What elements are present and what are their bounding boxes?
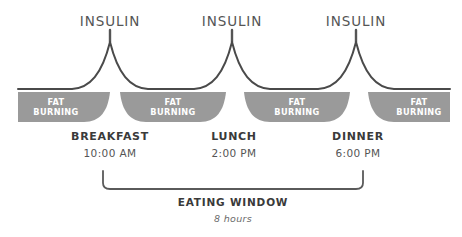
fat-burning-label-line1: FAT (164, 97, 181, 107)
meal-name: BREAKFAST (71, 130, 149, 143)
meal-name: DINNER (332, 130, 384, 143)
fat-burning-block-1: FAT BURNING (18, 92, 110, 122)
meal-labels: BREAKFAST 10:00 AM LUNCH 2:00 PM DINNER … (71, 130, 384, 159)
bracket-path (103, 171, 363, 189)
insulin-label-3: INSULIN (326, 13, 386, 29)
fat-burning-block-4: FAT BURNING (368, 92, 450, 122)
fat-burning-label-line1: FAT (410, 97, 427, 107)
fat-burning-blocks: FAT BURNING FAT BURNING FAT BURNING FAT … (18, 92, 450, 122)
insulin-fat-burning-infographic: FAT BURNING FAT BURNING FAT BURNING FAT … (0, 0, 462, 237)
fat-burning-label-line2: BURNING (274, 107, 319, 117)
eating-window-duration: 8 hours (214, 213, 252, 224)
insulin-labels: INSULIN INSULIN INSULIN (80, 13, 386, 29)
meal-time: 2:00 PM (211, 147, 256, 159)
eating-window-bracket (103, 171, 363, 189)
meal-time: 6:00 PM (335, 147, 380, 159)
meal-breakfast: BREAKFAST 10:00 AM (71, 130, 149, 159)
insulin-stems (110, 30, 356, 42)
fat-burning-label-line2: BURNING (150, 107, 195, 117)
fat-burning-label-line2: BURNING (396, 107, 441, 117)
meal-time: 10:00 AM (83, 147, 136, 159)
fat-burning-label-line1: FAT (47, 97, 64, 107)
eating-window-title: EATING WINDOW (178, 196, 289, 208)
insulin-curve-path (18, 42, 450, 89)
insulin-label-2: INSULIN (202, 13, 262, 29)
fat-burning-label-line1: FAT (288, 97, 305, 107)
insulin-label-1: INSULIN (80, 13, 140, 29)
insulin-curve (18, 42, 450, 89)
meal-name: LUNCH (211, 130, 257, 143)
fat-burning-label-line2: BURNING (33, 107, 78, 117)
meal-lunch: LUNCH 2:00 PM (211, 130, 257, 159)
fat-burning-block-3: FAT BURNING (244, 92, 350, 122)
meal-dinner: DINNER 6:00 PM (332, 130, 384, 159)
diagram-canvas: FAT BURNING FAT BURNING FAT BURNING FAT … (0, 0, 462, 237)
fat-burning-block-2: FAT BURNING (120, 92, 226, 122)
eating-window-labels: EATING WINDOW 8 hours (178, 196, 289, 224)
